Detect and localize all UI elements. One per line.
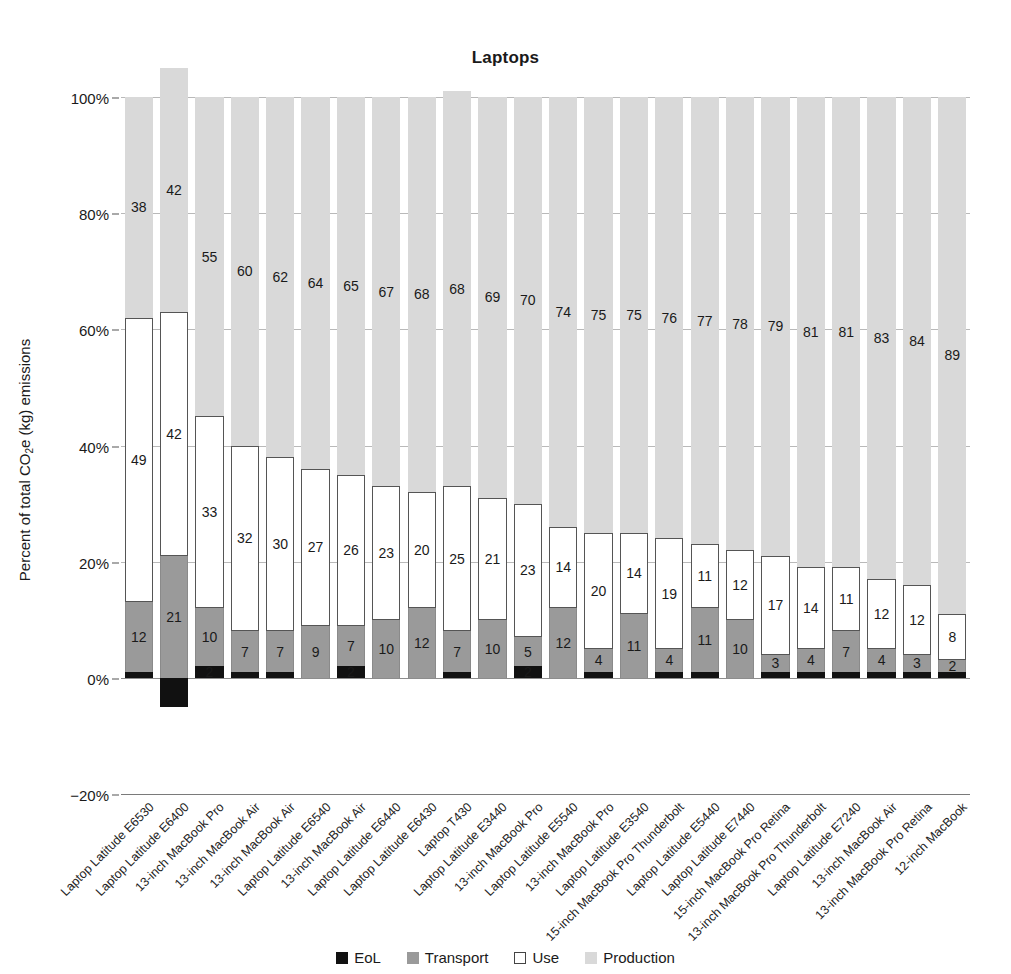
y-tick-mark <box>112 562 119 563</box>
legend-swatch-icon <box>336 952 348 964</box>
bar-column[interactable]: 73062 <box>266 97 294 794</box>
segment-transport <box>408 608 436 678</box>
bar-column[interactable]: 111475 <box>620 97 648 794</box>
segment-use <box>408 492 436 608</box>
bar-column[interactable]: 102367 <box>372 97 400 794</box>
bar-column[interactable]: 214242 <box>160 97 188 794</box>
bar-column[interactable]: 31284 <box>903 97 931 794</box>
segment-production <box>655 97 683 538</box>
legend-item[interactable]: Use <box>514 949 559 966</box>
segment-eol <box>867 672 895 678</box>
segment-production <box>903 97 931 585</box>
segment-eol <box>797 672 825 678</box>
bar-column[interactable]: 2889 <box>938 97 966 794</box>
legend-label: Use <box>532 949 559 966</box>
segment-production <box>584 97 612 533</box>
legend-swatch-icon <box>407 952 419 964</box>
legend-item[interactable]: Production <box>585 949 675 966</box>
segment-eol <box>655 672 683 678</box>
segment-production <box>620 97 648 533</box>
y-tick-mark <box>112 795 119 796</box>
segment-production <box>160 68 188 312</box>
segment-production <box>478 97 506 498</box>
segment-production <box>549 97 577 527</box>
segment-use <box>867 579 895 649</box>
bar-column[interactable]: 124938 <box>125 97 153 794</box>
segment-use <box>726 550 754 620</box>
segment-use <box>195 416 223 608</box>
bar-column[interactable]: 73260 <box>231 97 259 794</box>
bar-column[interactable]: 92764 <box>301 97 329 794</box>
bar-column[interactable]: 102169 <box>478 97 506 794</box>
segment-use <box>655 538 683 648</box>
bar-column[interactable]: 41481 <box>797 97 825 794</box>
legend-item[interactable]: Transport <box>407 949 489 966</box>
segment-transport <box>867 649 895 672</box>
segment-eol <box>160 678 188 707</box>
bar-column[interactable]: 121474 <box>549 97 577 794</box>
bar-column[interactable]: 41976 <box>655 97 683 794</box>
segment-use <box>832 567 860 631</box>
segment-eol <box>903 672 931 678</box>
segment-transport <box>832 631 860 672</box>
segment-transport <box>620 614 648 678</box>
bar-column[interactable]: 2103355 <box>195 97 223 794</box>
y-tick-label: 0% <box>87 670 109 687</box>
legend-item[interactable]: EoL <box>336 949 381 966</box>
segment-use <box>231 446 259 632</box>
segment-use <box>691 544 719 608</box>
segment-transport <box>266 631 294 672</box>
segment-use <box>514 504 542 638</box>
segment-use <box>903 585 931 655</box>
segment-eol <box>584 672 612 678</box>
segment-production <box>443 91 471 486</box>
segment-transport <box>160 556 188 678</box>
legend-label: Transport <box>425 949 489 966</box>
segment-use <box>761 556 789 655</box>
y-axis-title: Percent of total CO2e (kg) emissions <box>16 300 35 620</box>
segment-eol <box>266 672 294 678</box>
segment-use <box>372 486 400 620</box>
segment-production <box>125 97 153 318</box>
bar-column[interactable]: 111177 <box>691 97 719 794</box>
segment-transport <box>301 626 329 678</box>
segment-transport <box>372 620 400 678</box>
y-axis-title-pre: Percent of total CO <box>16 454 33 582</box>
bar-column[interactable]: 272665 <box>337 97 365 794</box>
segment-use <box>337 475 365 626</box>
legend-swatch-icon <box>514 952 526 964</box>
y-tick-mark <box>112 98 119 99</box>
plot-area: 100%80%60%40%20%0%−20% 12493821424221033… <box>121 97 970 794</box>
segment-use <box>443 486 471 631</box>
segment-transport <box>903 655 931 672</box>
segment-eol <box>938 672 966 678</box>
segment-use <box>266 457 294 631</box>
segment-production <box>867 97 895 579</box>
segment-production <box>195 97 223 416</box>
x-axis-labels: Laptop Latitude E6530Laptop Latitude E64… <box>121 800 970 960</box>
segment-production <box>691 97 719 544</box>
segment-transport <box>125 602 153 672</box>
segment-production <box>337 97 365 475</box>
bar-column[interactable]: 71181 <box>832 97 860 794</box>
bar-column[interactable]: 31779 <box>761 97 789 794</box>
bar-column[interactable]: 122068 <box>408 97 436 794</box>
segment-eol <box>832 672 860 678</box>
y-tick-label: 80% <box>79 206 109 223</box>
gridline--20: −20% <box>121 794 970 795</box>
bar-column[interactable]: 72568 <box>443 97 471 794</box>
bar-column[interactable]: 42075 <box>584 97 612 794</box>
bar-column[interactable]: 41283 <box>867 97 895 794</box>
segment-eol <box>125 672 153 678</box>
segment-eol <box>231 672 259 678</box>
segment-production <box>726 97 754 550</box>
segment-transport <box>797 649 825 672</box>
segment-use <box>549 527 577 608</box>
segment-use <box>938 614 966 660</box>
y-tick-mark <box>112 446 119 447</box>
y-tick-label: 40% <box>79 438 109 455</box>
segment-transport <box>549 608 577 678</box>
bar-column[interactable]: 101278 <box>726 97 754 794</box>
bar-column[interactable]: 252370 <box>514 97 542 794</box>
segment-transport <box>761 655 789 672</box>
